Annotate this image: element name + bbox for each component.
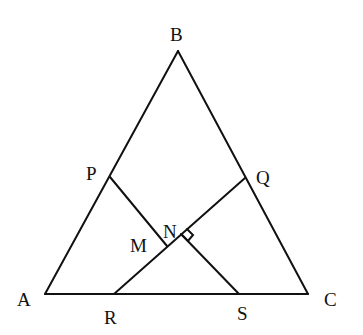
label-q: Q <box>256 167 270 188</box>
label-a: A <box>17 289 31 310</box>
segment-ns <box>181 234 239 294</box>
label-c: C <box>324 289 337 310</box>
label-r: R <box>104 307 117 328</box>
geometry-diagram: B P Q N M A R S C <box>0 0 363 335</box>
label-s: S <box>237 303 248 324</box>
label-b: B <box>170 24 183 45</box>
side-bc <box>178 51 308 294</box>
label-n: N <box>163 221 177 242</box>
right-angle-marker <box>182 229 193 241</box>
side-ab <box>45 51 178 294</box>
label-m: M <box>130 235 147 256</box>
label-p: P <box>86 163 97 184</box>
